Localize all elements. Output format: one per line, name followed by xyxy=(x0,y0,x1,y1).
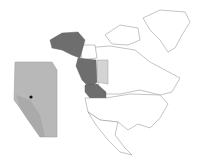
alberta xyxy=(97,60,108,84)
alberta-inset xyxy=(14,62,57,137)
north-america-map xyxy=(0,0,200,162)
arctic-islands xyxy=(105,25,140,45)
british-columbia xyxy=(76,58,97,88)
greenland xyxy=(143,10,190,52)
locator-map xyxy=(0,0,200,162)
alaska xyxy=(50,32,85,58)
location-marker xyxy=(29,95,32,98)
